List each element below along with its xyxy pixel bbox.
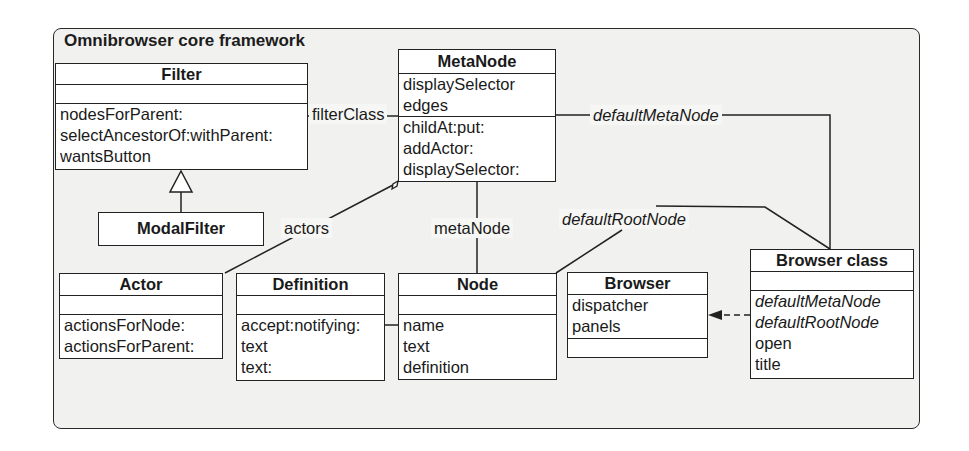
method: accept:notifying: <box>241 315 380 336</box>
class-filter[interactable]: Filter nodesForParent: selectAncestorOf:… <box>55 63 308 170</box>
class-name: MetaNode <box>399 50 555 74</box>
class-definition[interactable]: Definition accept:notifying: text text: <box>236 273 385 381</box>
class-actor[interactable]: Actor actionsForNode: actionsForParent: <box>59 273 223 359</box>
class-method: defaultRootNode <box>755 312 909 333</box>
label-filterclass: filterClass <box>309 104 387 124</box>
class-name: Browser <box>568 273 707 295</box>
attributes-compartment: dispatcher panels <box>568 295 707 339</box>
attribute: dispatcher <box>572 295 703 316</box>
class-modalfilter[interactable]: ModalFilter <box>98 212 264 246</box>
class-name: Filter <box>56 64 307 85</box>
methods-compartment: nodesForParent: selectAncestorOf:withPar… <box>56 104 307 167</box>
class-method: title <box>755 354 909 375</box>
attribute: displaySelector <box>403 74 551 95</box>
class-node[interactable]: Node name text definition <box>398 273 557 380</box>
attribute: edges <box>403 95 551 116</box>
class-browser-class[interactable]: Browser class defaultMetaNode defaultRoo… <box>750 249 914 379</box>
method: childAt:put: <box>403 117 551 138</box>
methods-compartment: childAt:put: addActor: displaySelector: <box>399 117 555 180</box>
method: name <box>403 315 552 336</box>
class-name: Actor <box>60 274 222 296</box>
method: text <box>241 336 380 357</box>
attributes-compartment <box>751 272 913 291</box>
attributes-compartment <box>237 296 384 315</box>
method: actionsForParent: <box>64 336 218 357</box>
class-method: open <box>755 333 909 354</box>
class-name: ModalFilter <box>99 213 263 244</box>
defaultrootnode-line-a <box>556 230 622 273</box>
method: selectAncestorOf:withParent: <box>60 125 303 146</box>
methods-compartment: name text definition <box>399 315 556 378</box>
method: definition <box>403 357 552 378</box>
attributes-compartment <box>56 85 307 104</box>
class-browser[interactable]: Browser dispatcher panels <box>567 272 708 358</box>
label-actors: actors <box>281 218 332 238</box>
method: wantsButton <box>60 146 303 167</box>
method: displaySelector: <box>403 159 551 180</box>
class-name: Definition <box>237 274 384 296</box>
attributes-compartment <box>399 296 556 315</box>
methods-compartment: defaultMetaNode defaultRootNode open tit… <box>751 291 913 375</box>
label-metanode: metaNode <box>431 218 513 238</box>
class-name: Node <box>399 274 556 296</box>
label-defaultrootnode: defaultRootNode <box>559 209 689 229</box>
attributes-compartment <box>60 296 222 315</box>
attributes-compartment: displaySelector edges <box>399 74 555 117</box>
method: nodesForParent: <box>60 104 303 125</box>
method: text <box>403 336 552 357</box>
generalization-triangle-icon <box>170 171 192 192</box>
method: addActor: <box>403 138 551 159</box>
class-method: defaultMetaNode <box>755 291 909 312</box>
aggregation-diamond-icon <box>392 181 398 189</box>
methods-compartment: actionsForNode: actionsForParent: <box>60 315 222 357</box>
attribute: panels <box>572 316 703 337</box>
class-name: Browser class <box>751 250 913 272</box>
method: text: <box>241 357 380 378</box>
label-defaultmetanode: defaultMetaNode <box>590 105 722 125</box>
class-metanode[interactable]: MetaNode displaySelector edges childAt:p… <box>398 49 556 182</box>
method: actionsForNode: <box>64 315 218 336</box>
methods-compartment: accept:notifying: text text: <box>237 315 384 378</box>
dependency-arrowhead-icon <box>708 310 722 320</box>
